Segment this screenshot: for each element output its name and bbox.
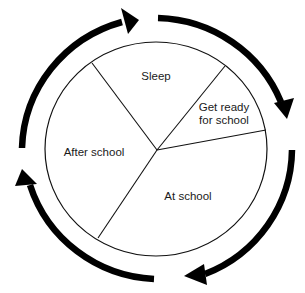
arrowhead-top-right-icon xyxy=(274,98,294,119)
arrow-bottom-left-icon xyxy=(30,185,154,279)
segment-label-get-ready: Get ready for school xyxy=(199,101,250,127)
arrowhead-bottom-left-icon xyxy=(15,169,37,186)
segment-label-at-school: At school xyxy=(164,190,211,203)
arrow-top-right-icon xyxy=(158,18,281,102)
spoke-atschool-after xyxy=(98,150,157,238)
arrow-top-left-icon xyxy=(22,22,122,148)
segment-label-sleep: Sleep xyxy=(141,70,170,83)
segment-label-after-school: After school xyxy=(64,146,125,159)
segment-label-get-ready-line1: Get ready xyxy=(199,101,250,114)
spoke-getready-atschool xyxy=(157,130,266,150)
segment-label-get-ready-line2: for school xyxy=(199,114,250,127)
arrowhead-top-left-icon xyxy=(121,8,139,34)
arrowhead-bottom-right-icon xyxy=(184,264,207,285)
cycle-diagram xyxy=(0,0,305,293)
arrow-bottom-right-icon xyxy=(205,150,292,274)
